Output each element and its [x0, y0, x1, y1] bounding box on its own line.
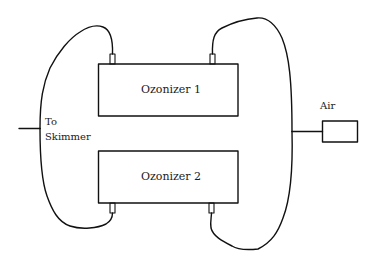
tube-ozonizer-2-to-skimmer	[40, 129, 113, 229]
ozonizer-2-right-port	[209, 203, 214, 213]
ozonizer-1-label: Ozonizer 1	[141, 83, 201, 96]
tube-air-to-ozonizer-1	[212, 18, 292, 132]
ozonizer-1-right-port	[210, 54, 215, 64]
tube-ozonizer-1-to-skimmer	[40, 26, 113, 129]
ozonizer-2-left-port	[110, 203, 115, 213]
ozonizer-2-label: Ozonizer 2	[141, 170, 201, 183]
tube-air-to-ozonizer-2	[211, 132, 293, 250]
ozonizer-1-left-port	[110, 54, 115, 64]
air-label: Air	[320, 100, 335, 111]
air-pump-box	[323, 121, 358, 142]
skimmer-label-line2: Skimmer	[45, 131, 91, 142]
skimmer-label-line1: To	[45, 116, 57, 127]
